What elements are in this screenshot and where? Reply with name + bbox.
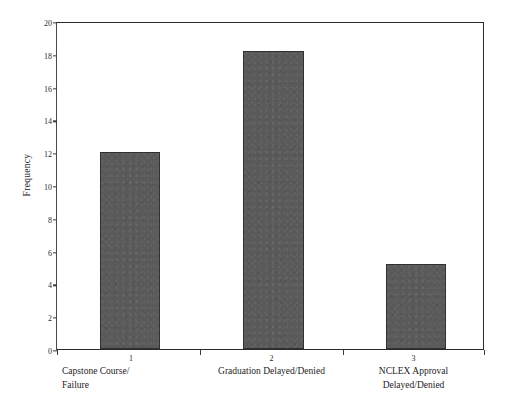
x-tick-mark bbox=[57, 350, 58, 355]
x-category-number: 3 bbox=[343, 353, 484, 364]
x-category-number: 1 bbox=[62, 353, 200, 364]
plot-area: 02468101214161820 bbox=[56, 22, 484, 350]
x-category-text: Capstone Course/ Failure bbox=[62, 364, 200, 392]
y-tick-mark bbox=[53, 55, 57, 56]
bar bbox=[386, 264, 446, 349]
y-tick-mark bbox=[53, 88, 57, 89]
y-tick-mark bbox=[53, 219, 57, 220]
bar bbox=[243, 51, 304, 349]
y-axis-title: Frequency bbox=[18, 0, 36, 350]
y-tick-mark bbox=[53, 121, 57, 122]
x-category-text: Graduation Delayed/Denied bbox=[200, 364, 343, 378]
bar-chart-figure: Frequency 02468101214161820 1Capstone Co… bbox=[0, 0, 510, 412]
y-tick-mark bbox=[53, 22, 57, 23]
x-category-label: 1Capstone Course/ Failure bbox=[62, 353, 200, 392]
x-category-number: 2 bbox=[200, 353, 343, 364]
y-tick-mark bbox=[53, 285, 57, 286]
y-tick-mark bbox=[53, 186, 57, 187]
y-tick-mark bbox=[53, 252, 57, 253]
y-tick-mark bbox=[53, 154, 57, 155]
x-category-text: NCLEX Approval Delayed/Denied bbox=[343, 364, 484, 392]
x-tick-mark bbox=[484, 350, 485, 355]
y-axis-title-label: Frequency bbox=[22, 154, 32, 197]
x-category-label: 2Graduation Delayed/Denied bbox=[200, 353, 343, 378]
y-tick-mark bbox=[53, 318, 57, 319]
bar bbox=[100, 152, 160, 349]
x-category-label: 3NCLEX Approval Delayed/Denied bbox=[343, 353, 484, 392]
